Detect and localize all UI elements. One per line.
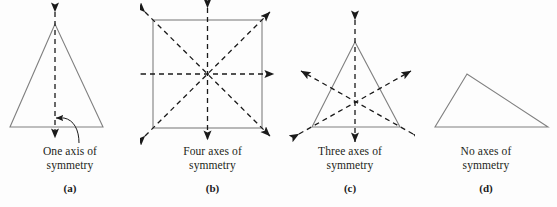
panel-a-caption-line2: symmetry [0,158,140,172]
panel-a-diagram [0,0,140,145]
symmetry-figure: One axis of symmetry (a) Four axes of sy… [0,0,557,207]
panel-b-label: (b) [140,182,285,194]
panel-a-caption-line1: One axis of [0,144,140,158]
panel-c-diagram [285,0,415,145]
panel-d-caption-line1: No axes of [415,144,557,158]
axis-of-symmetry-2 [299,71,411,134]
scalene-triangle-shape [435,74,548,127]
panel-c-label: (c) [285,182,415,194]
panel-d-label: (d) [415,182,557,194]
axis-of-symmetry-3 [301,71,413,134]
leader-line-curve [64,118,79,143]
panel-c: Three axes of symmetry (c) [285,0,415,207]
isosceles-triangle-shape [10,24,103,127]
panel-d-diagram [415,0,557,145]
panel-b-caption-line2: symmetry [140,158,285,172]
panel-d-caption-line2: symmetry [415,158,557,172]
panel-b-caption-line1: Four axes of [140,144,285,158]
panel-a-label: (a) [0,182,140,194]
panel-c-caption-line2: symmetry [285,158,415,172]
panel-b: Four axes of symmetry (b) [140,0,285,207]
panel-a: One axis of symmetry (a) [0,0,140,207]
panel-b-diagram [140,0,285,145]
panel-c-caption-line1: Three axes of [285,144,415,158]
panel-d: No axes of symmetry (d) [415,0,557,207]
